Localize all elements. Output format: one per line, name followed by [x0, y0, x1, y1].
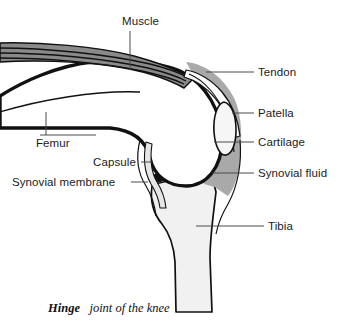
figure-caption: Hinge joint of the knee: [47, 298, 170, 315]
label-femur: Femur: [36, 137, 70, 149]
label-cartilage: Cartilage: [258, 136, 305, 148]
label-synovial-fluid: Synovial fluid: [258, 167, 327, 179]
label-synovial-membrane: Synovial membrane: [12, 176, 115, 188]
label-patella: Patella: [258, 107, 294, 119]
knee-joint-diagram: Muscle Tendon Patella Cartilage Synovial…: [0, 0, 351, 336]
label-tibia: Tibia: [268, 220, 294, 232]
caption-rest-text: joint of the knee: [87, 301, 170, 315]
patella-shape: [214, 102, 236, 155]
caption-bold-word: Hinge: [47, 301, 80, 315]
label-capsule: Capsule: [93, 156, 136, 168]
label-tendon: Tendon: [258, 66, 296, 78]
label-muscle: Muscle: [122, 15, 159, 27]
